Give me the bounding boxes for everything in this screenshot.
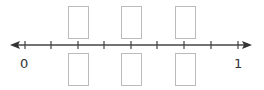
answer-box-bottom-1[interactable] [69, 54, 89, 86]
start-label: 0 [20, 56, 28, 71]
answer-box-top-3[interactable] [176, 7, 196, 39]
end-label: 1 [234, 56, 242, 71]
answer-box-bottom-2[interactable] [122, 54, 142, 86]
number-line-svg [0, 0, 264, 90]
answer-box-bottom-3[interactable] [176, 54, 196, 86]
answer-box-top-1[interactable] [69, 7, 89, 39]
answer-box-top-2[interactable] [122, 7, 142, 39]
